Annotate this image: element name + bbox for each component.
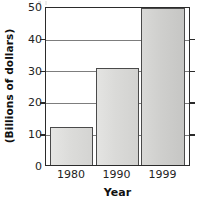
y-tick-mark-right-30	[190, 71, 195, 72]
bar-1990	[96, 68, 139, 165]
bar-chart-figure: (Billions of dollars) 50 40 30 20 10 0 1…	[0, 0, 197, 211]
x-tick-label-1980: 1980	[57, 168, 85, 181]
y-tick-mark-right-10	[190, 134, 195, 135]
bar-1980	[50, 127, 93, 165]
x-tick-label-1990: 1990	[103, 168, 131, 181]
y-tick-mark-right-40	[190, 39, 195, 40]
x-axis-title: Year	[45, 186, 190, 199]
plot-area	[45, 7, 190, 166]
y-tick-label-50: 50	[28, 1, 42, 14]
x-axis-tick-labels: 1980 1990 1999	[45, 168, 190, 183]
y-axis-tick-labels: 50 40 30 20 10 0	[18, 7, 43, 166]
y-tick-label-0: 0	[35, 160, 42, 173]
y-axis-title-text: (Billions of dollars)	[3, 29, 15, 144]
cropped-title-artifact	[38, 1, 88, 5]
y-axis-title: (Billions of dollars)	[0, 0, 18, 172]
bar-1999	[141, 8, 185, 165]
y-tick-mark-right-20	[190, 102, 195, 103]
x-tick-label-1999: 1999	[149, 168, 177, 181]
